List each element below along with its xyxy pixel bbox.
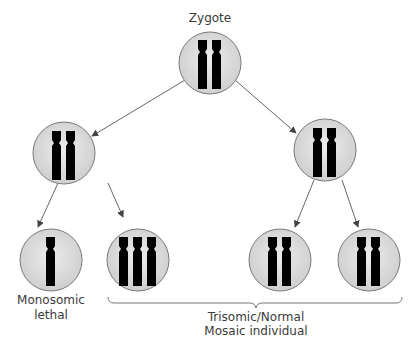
arrow-right-rightchild — [342, 180, 358, 227]
arrow-zygote-right — [235, 80, 296, 133]
cell-monosomic — [20, 229, 82, 291]
cell-right — [294, 119, 356, 181]
cell-normal-2 — [338, 229, 400, 291]
cell-left — [33, 122, 95, 184]
mosaicism-diagram: Zygote Monosomic lethal Trisomic/Normal … — [0, 0, 408, 338]
diagram-canvas — [0, 0, 408, 338]
mosaic-label-line2: Mosaic individual — [196, 324, 316, 338]
zygote-label: Zygote — [180, 11, 240, 26]
arrow-right-leftchild — [295, 180, 314, 227]
cell-normal-1 — [249, 229, 311, 291]
cell-zygote — [179, 32, 241, 94]
cell-trisomic — [107, 229, 169, 291]
arrow-zygote-left — [92, 80, 185, 136]
arrow-left-leftchild — [38, 183, 58, 227]
mosaic-label-line1: Trisomic/Normal — [196, 310, 316, 325]
monosomic-label-line2: lethal — [11, 308, 91, 323]
arrow-left-rightchild — [108, 183, 123, 217]
monosomic-label-line1: Monosomic — [11, 293, 91, 308]
mosaic-brace — [108, 297, 402, 308]
